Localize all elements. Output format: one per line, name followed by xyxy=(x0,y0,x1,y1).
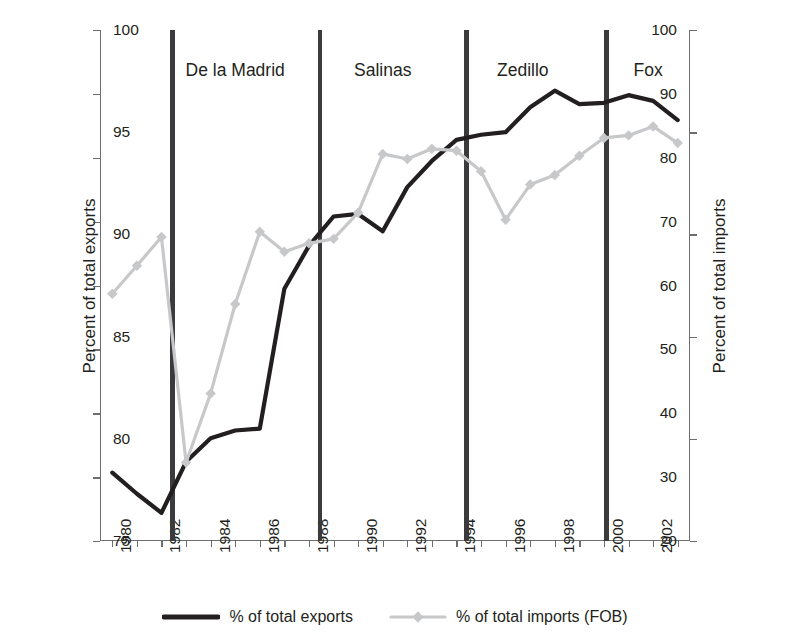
left-axis-title: Percent of total exports xyxy=(80,126,100,446)
series-line xyxy=(112,126,677,462)
x-tick-mark xyxy=(481,541,482,547)
left-tick-mark xyxy=(93,477,100,478)
plot-area: 2030405060708090100 7580859095100 198019… xyxy=(100,30,690,541)
right-tick-mark xyxy=(690,541,697,542)
legend-entry: % of total exports xyxy=(162,608,353,626)
legend-line-icon xyxy=(162,609,220,625)
x-tick-mark xyxy=(579,541,580,547)
legend-label: % of total exports xyxy=(229,608,353,626)
left-tick-mark xyxy=(93,30,100,31)
left-tick-mark xyxy=(93,94,100,95)
x-tick-mark xyxy=(161,541,162,547)
series-marker xyxy=(377,149,387,159)
right-tick-mark xyxy=(690,30,697,31)
x-tick-mark xyxy=(555,541,556,547)
right-axis-title: Percent of total imports xyxy=(710,126,730,446)
x-tick-mark xyxy=(432,541,433,547)
x-tick-mark xyxy=(334,541,335,547)
x-tick-mark xyxy=(530,541,531,547)
x-tick-mark xyxy=(383,541,384,547)
x-tick-mark xyxy=(629,541,630,547)
series-line xyxy=(112,91,677,513)
left-tick-mark xyxy=(93,541,100,542)
x-tick-mark xyxy=(112,541,113,547)
legend-line-diamond-icon xyxy=(389,609,447,625)
x-tick-mark xyxy=(456,541,457,547)
chart-figure: 2030405060708090100 7580859095100 198019… xyxy=(0,0,790,642)
x-tick-mark xyxy=(260,541,261,547)
x-tick-mark xyxy=(235,541,236,547)
chart-legend: % of total exports% of total imports (FO… xyxy=(0,608,790,626)
series-marker xyxy=(623,130,633,140)
x-tick-mark xyxy=(678,541,679,547)
legend-entry: % of total imports (FOB) xyxy=(389,608,628,626)
x-tick-mark xyxy=(284,541,285,547)
series-marker xyxy=(205,388,215,398)
x-tick-mark xyxy=(358,541,359,547)
chart-lines xyxy=(100,30,690,541)
x-tick-mark xyxy=(407,541,408,547)
right-tick-mark xyxy=(690,337,697,338)
series-marker xyxy=(427,144,437,154)
series-marker xyxy=(402,154,412,164)
series-marker xyxy=(230,299,240,309)
legend-label: % of total imports (FOB) xyxy=(456,608,628,626)
x-tick-mark xyxy=(506,541,507,547)
right-tick-mark xyxy=(690,439,697,440)
x-tick-mark xyxy=(604,541,605,547)
x-tick-mark xyxy=(186,541,187,547)
x-tick-mark xyxy=(137,541,138,547)
x-tick-mark xyxy=(653,541,654,547)
right-tick-mark xyxy=(690,234,697,235)
right-tick-mark xyxy=(690,132,697,133)
x-tick-mark xyxy=(309,541,310,547)
x-tick-mark xyxy=(211,541,212,547)
